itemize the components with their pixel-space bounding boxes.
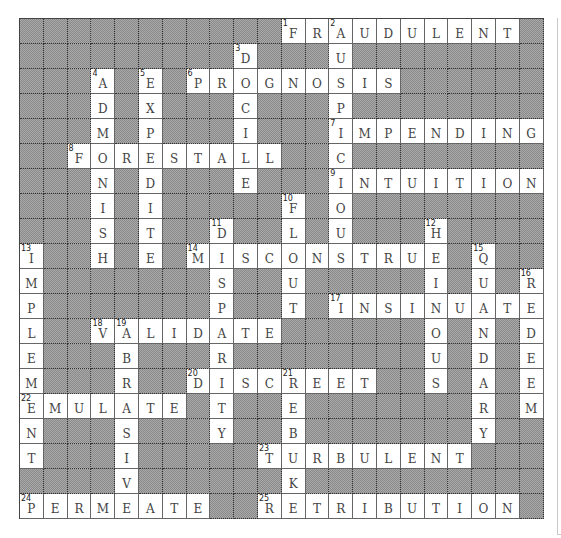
letter-cell[interactable]: N <box>306 244 330 269</box>
letter-cell[interactable]: O <box>306 69 330 94</box>
letter-cell[interactable]: C <box>234 94 258 119</box>
letter-cell[interactable]: U <box>401 244 425 269</box>
letter-cell[interactable]: U <box>329 44 353 69</box>
letter-cell[interactable]: N <box>472 319 496 344</box>
letter-cell[interactable]: S <box>234 369 258 394</box>
letter-cell[interactable]: 15Q <box>472 244 496 269</box>
letter-cell[interactable]: P <box>377 119 401 144</box>
letter-cell[interactable]: A <box>472 294 496 319</box>
letter-cell[interactable]: P <box>210 294 234 319</box>
letter-cell[interactable]: U <box>401 494 425 519</box>
letter-cell[interactable]: S <box>329 69 353 94</box>
letter-cell[interactable]: N <box>353 169 377 194</box>
letter-cell[interactable]: B <box>282 419 306 444</box>
letter-cell[interactable]: L <box>139 319 163 344</box>
letter-cell[interactable]: E <box>520 344 544 369</box>
letter-cell[interactable]: P <box>139 119 163 144</box>
letter-cell[interactable]: R <box>68 494 92 519</box>
letter-cell[interactable]: U <box>282 269 306 294</box>
letter-cell[interactable]: E <box>448 19 472 44</box>
letter-cell[interactable]: A <box>210 144 234 169</box>
letter-cell[interactable]: T <box>139 394 163 419</box>
letter-cell[interactable]: E <box>306 369 330 394</box>
letter-cell[interactable]: L <box>234 144 258 169</box>
letter-cell[interactable]: 18V <box>91 319 115 344</box>
letter-cell[interactable]: 5E <box>139 69 163 94</box>
letter-cell[interactable]: U <box>353 19 377 44</box>
letter-cell[interactable]: 12H <box>425 219 449 244</box>
letter-cell[interactable]: D <box>472 344 496 369</box>
letter-cell[interactable]: D <box>187 319 211 344</box>
letter-cell[interactable]: 23T <box>258 444 282 469</box>
letter-cell[interactable]: 2A <box>329 19 353 44</box>
letter-cell[interactable]: V <box>115 469 139 494</box>
letter-cell[interactable]: E <box>187 494 211 519</box>
letter-cell[interactable]: G <box>520 119 544 144</box>
letter-cell[interactable]: E <box>139 144 163 169</box>
letter-cell[interactable]: R <box>377 244 401 269</box>
letter-cell[interactable]: 8F <box>68 144 92 169</box>
letter-cell[interactable]: I <box>353 69 377 94</box>
letter-cell[interactable]: Y <box>210 419 234 444</box>
letter-cell[interactable]: N <box>496 494 520 519</box>
letter-cell[interactable]: P <box>20 294 44 319</box>
letter-cell[interactable]: T <box>187 144 211 169</box>
letter-cell[interactable]: I <box>91 194 115 219</box>
letter-cell[interactable]: D <box>377 19 401 44</box>
letter-cell[interactable]: O <box>496 169 520 194</box>
letter-cell[interactable]: E <box>401 119 425 144</box>
letter-cell[interactable]: T <box>496 19 520 44</box>
letter-cell[interactable]: E <box>258 319 282 344</box>
letter-cell[interactable]: E <box>115 494 139 519</box>
letter-cell[interactable]: G <box>258 69 282 94</box>
letter-cell[interactable]: X <box>139 94 163 119</box>
letter-cell[interactable]: N <box>425 119 449 144</box>
letter-cell[interactable]: I <box>139 194 163 219</box>
letter-cell[interactable]: S <box>425 369 449 394</box>
letter-cell[interactable]: 6P <box>187 69 211 94</box>
letter-cell[interactable]: E <box>282 394 306 419</box>
letter-cell[interactable]: C <box>258 369 282 394</box>
letter-cell[interactable]: T <box>353 369 377 394</box>
letter-cell[interactable]: T <box>139 219 163 244</box>
letter-cell[interactable]: R <box>472 394 496 419</box>
letter-cell[interactable]: U <box>353 444 377 469</box>
letter-cell[interactable]: R <box>115 144 139 169</box>
letter-cell[interactable]: B <box>115 344 139 369</box>
letter-cell[interactable]: 24P <box>20 494 44 519</box>
letter-cell[interactable]: 17I <box>329 294 353 319</box>
letter-cell[interactable]: S <box>234 244 258 269</box>
letter-cell[interactable]: T <box>353 244 377 269</box>
letter-cell[interactable]: U <box>329 219 353 244</box>
letter-cell[interactable]: I <box>472 119 496 144</box>
letter-cell[interactable]: 7I <box>329 119 353 144</box>
letter-cell[interactable]: I <box>425 269 449 294</box>
letter-cell[interactable]: 19A <box>115 319 139 344</box>
letter-cell[interactable]: R <box>306 19 330 44</box>
letter-cell[interactable]: T <box>496 294 520 319</box>
letter-cell[interactable]: L <box>258 144 282 169</box>
letter-cell[interactable]: T <box>20 444 44 469</box>
letter-cell[interactable]: R <box>115 369 139 394</box>
letter-cell[interactable]: I <box>448 494 472 519</box>
letter-cell[interactable]: O <box>91 144 115 169</box>
letter-cell[interactable]: O <box>234 69 258 94</box>
letter-cell[interactable]: 10F <box>282 194 306 219</box>
letter-cell[interactable]: O <box>329 194 353 219</box>
letter-cell[interactable]: E <box>329 369 353 394</box>
letter-cell[interactable]: 14M <box>187 244 211 269</box>
letter-cell[interactable]: C <box>329 144 353 169</box>
letter-cell[interactable]: B <box>329 444 353 469</box>
letter-cell[interactable]: U <box>401 19 425 44</box>
letter-cell[interactable]: N <box>91 169 115 194</box>
letter-cell[interactable]: H <box>91 244 115 269</box>
letter-cell[interactable]: R <box>210 69 234 94</box>
letter-cell[interactable]: S <box>91 219 115 244</box>
letter-cell[interactable]: S <box>115 419 139 444</box>
letter-cell[interactable]: 21R <box>282 369 306 394</box>
letter-cell[interactable]: I <box>115 444 139 469</box>
letter-cell[interactable]: R <box>306 444 330 469</box>
letter-cell[interactable]: A <box>139 494 163 519</box>
letter-cell[interactable]: E <box>139 244 163 269</box>
letter-cell[interactable]: L <box>282 219 306 244</box>
